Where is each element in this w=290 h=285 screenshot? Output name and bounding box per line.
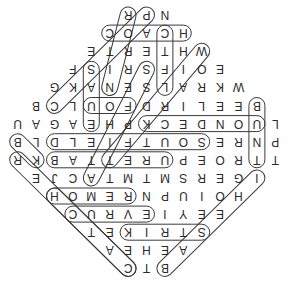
grid-letter[interactable]: A <box>69 117 77 131</box>
grid-letter[interactable]: E <box>106 225 114 239</box>
grid-letter[interactable]: O <box>105 99 114 113</box>
grid-letter[interactable]: E <box>161 243 169 257</box>
grid-letter[interactable]: U <box>87 207 96 221</box>
word-search-board[interactable]: RPNCOACHETRETHWFSIRSFIOEGKANESLARKWBCLUO… <box>0 0 290 285</box>
grid-letter[interactable]: R <box>234 135 243 149</box>
grid-letter[interactable]: T <box>105 44 113 58</box>
grid-letter[interactable]: C <box>68 171 77 185</box>
grid-letter[interactable]: O <box>197 62 206 76</box>
grid-letter[interactable]: F <box>69 62 76 76</box>
grid-letter[interactable]: F <box>124 135 131 149</box>
grid-letter[interactable]: S <box>142 62 150 76</box>
grid-letter[interactable]: O <box>68 189 77 203</box>
grid-letter[interactable]: M <box>123 171 133 185</box>
grid-letter[interactable]: Y <box>179 207 187 221</box>
grid-letter[interactable]: A <box>32 117 40 131</box>
grid-letter[interactable]: H <box>179 26 188 40</box>
grid-letter[interactable]: W <box>232 80 244 94</box>
grid-letter[interactable]: K <box>142 117 150 131</box>
grid-letter[interactable]: R <box>160 225 169 239</box>
grid-letter[interactable]: O <box>215 189 224 203</box>
grid-letter[interactable]: T <box>271 153 279 167</box>
grid-letter[interactable]: E <box>124 243 132 257</box>
grid-letter[interactable]: A <box>87 80 95 94</box>
grid-letter[interactable]: U <box>253 117 262 131</box>
grid-letter[interactable]: R <box>13 153 22 167</box>
grid-letter[interactable]: B <box>161 261 169 275</box>
grid-letter[interactable]: T <box>179 225 187 239</box>
grid-letter[interactable]: E <box>198 207 206 221</box>
grid-letter[interactable]: K <box>32 153 40 167</box>
grid-letter[interactable]: T <box>105 171 113 185</box>
grid-letter[interactable]: N <box>216 117 225 131</box>
grid-letter[interactable]: I <box>200 189 203 203</box>
grid-letter[interactable]: T <box>161 44 169 58</box>
grid-letter[interactable]: O <box>215 153 224 167</box>
grid-letter[interactable]: S <box>198 225 206 239</box>
grid-letter[interactable]: E <box>124 80 132 94</box>
grid-letter[interactable]: V <box>124 207 132 221</box>
grid-letter[interactable]: E <box>234 99 242 113</box>
grid-letter[interactable]: N <box>161 8 170 22</box>
grid-letter[interactable]: E <box>87 44 95 58</box>
grid-letter[interactable]: S <box>87 62 95 76</box>
grid-letter[interactable]: M <box>86 189 96 203</box>
grid-letter[interactable]: S <box>179 171 187 185</box>
grid-letter[interactable]: O <box>234 117 243 131</box>
grid-letter[interactable]: A <box>179 243 187 257</box>
grid-letter[interactable]: C <box>123 261 132 275</box>
grid-letter[interactable]: E <box>216 171 224 185</box>
grid-letter[interactable]: T <box>105 153 113 167</box>
grid-letter[interactable]: A <box>87 171 95 185</box>
grid-letter[interactable]: I <box>108 62 111 76</box>
grid-letter[interactable]: B <box>253 99 261 113</box>
grid-letter[interactable]: C <box>105 26 114 40</box>
grid-letter[interactable]: I <box>182 99 185 113</box>
grid-letter[interactable]: K <box>124 225 132 239</box>
grid-letter[interactable]: K <box>69 80 77 94</box>
grid-letter[interactable]: U <box>87 99 96 113</box>
grid-letter[interactable]: R <box>123 62 132 76</box>
grid-letter[interactable]: E <box>198 153 206 167</box>
grid-letter[interactable]: T <box>142 261 150 275</box>
grid-letter[interactable]: U <box>179 189 188 203</box>
grid-letter[interactable]: B <box>14 135 22 149</box>
grid-letter[interactable]: E <box>142 44 150 58</box>
grid-letter[interactable]: A <box>142 26 150 40</box>
grid-letter[interactable]: R <box>105 207 114 221</box>
grid-letter[interactable]: H <box>105 117 114 131</box>
grid-letter[interactable]: I <box>255 171 258 185</box>
grid-letter[interactable]: I <box>163 207 166 221</box>
grid-letter[interactable]: C <box>160 117 169 131</box>
grid-letter[interactable]: T <box>142 135 150 149</box>
grid-letter[interactable]: B <box>32 99 40 113</box>
grid-letter[interactable]: C <box>50 99 59 113</box>
grid-letter[interactable]: W <box>195 44 207 58</box>
grid-letter[interactable]: E <box>32 171 40 185</box>
grid-letter[interactable]: P <box>161 189 169 203</box>
grid-letter[interactable]: B <box>50 153 58 167</box>
grid-letter[interactable]: H <box>50 189 59 203</box>
grid-letter[interactable]: H <box>142 243 151 257</box>
grid-letter[interactable]: C <box>160 26 169 40</box>
grid-letter[interactable]: A <box>179 80 187 94</box>
grid-letter[interactable]: P <box>179 153 187 167</box>
grid-letter[interactable]: I <box>108 135 111 149</box>
grid-letter[interactable]: H <box>179 44 188 58</box>
grid-letter[interactable]: R <box>197 80 206 94</box>
grid-letter[interactable]: F <box>161 62 168 76</box>
grid-letter[interactable]: O <box>123 26 132 40</box>
grid-letter[interactable]: E <box>179 117 187 131</box>
grid-letter[interactable]: R <box>123 44 132 58</box>
grid-letter[interactable]: L <box>69 135 76 149</box>
grid-letter[interactable]: U <box>161 153 170 167</box>
grid-letter[interactable]: H <box>234 189 243 203</box>
grid-letter[interactable]: N <box>142 189 151 203</box>
grid-letter[interactable]: L <box>198 99 205 113</box>
grid-letter[interactable]: T <box>87 225 95 239</box>
grid-letter[interactable]: T <box>142 171 150 185</box>
grid-letter[interactable]: D <box>50 135 59 149</box>
grid-letter[interactable]: A <box>106 243 114 257</box>
grid-letter[interactable]: I <box>182 62 185 76</box>
grid-letter[interactable]: D <box>197 117 206 131</box>
